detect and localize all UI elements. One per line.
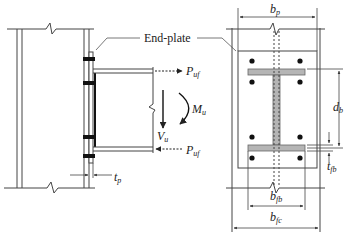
bolt — [249, 134, 254, 139]
column-far-flange — [17, 29, 22, 188]
column-top-break-line — [226, 23, 325, 35]
plate-thickness-dimension — [70, 163, 112, 178]
end-plate-label: End-plate — [144, 31, 191, 45]
label-plate-width: bp — [270, 2, 280, 17]
bolt — [249, 79, 254, 84]
bolt — [297, 155, 302, 160]
bolt — [83, 57, 95, 61]
beam-break-line — [149, 67, 155, 153]
beam-section — [248, 69, 305, 151]
beam-bottom-flange — [93, 147, 153, 151]
column-bottom-break-line — [4, 182, 95, 193]
label-beam-flange-width: bfb — [270, 189, 282, 204]
label-top-flange-force: Puf — [185, 64, 201, 79]
bolt — [83, 135, 95, 139]
label-plate-thickness: tp — [114, 170, 121, 185]
beam-top-flange — [93, 69, 153, 73]
bolt — [83, 154, 95, 158]
beam-bottom-flange-section — [248, 145, 305, 151]
label-beam-depth: db — [333, 100, 343, 115]
bolt — [83, 81, 95, 85]
bolt — [297, 79, 302, 84]
bolt — [297, 134, 302, 139]
bolt — [249, 58, 254, 63]
beam-web-section — [273, 75, 280, 145]
label-bottom-flange-force: Puf — [185, 143, 201, 158]
connection-diagram: Puf Puf Mu Vu tp End-plate — [0, 0, 352, 236]
label-moment: Mu — [191, 102, 206, 117]
label-shear: Vu — [157, 129, 168, 144]
beam-top-flange-section — [248, 69, 305, 75]
column-top-break-line — [7, 23, 94, 34]
bolt — [297, 58, 302, 63]
bolt — [249, 155, 254, 160]
label-column-flange-width: bfc — [270, 210, 282, 225]
side-view — [4, 23, 155, 193]
label-beam-flange-thickness: tfb — [327, 159, 337, 174]
moment-arrow — [179, 93, 189, 124]
end-plate — [89, 52, 93, 163]
column-near-flange — [84, 29, 89, 188]
